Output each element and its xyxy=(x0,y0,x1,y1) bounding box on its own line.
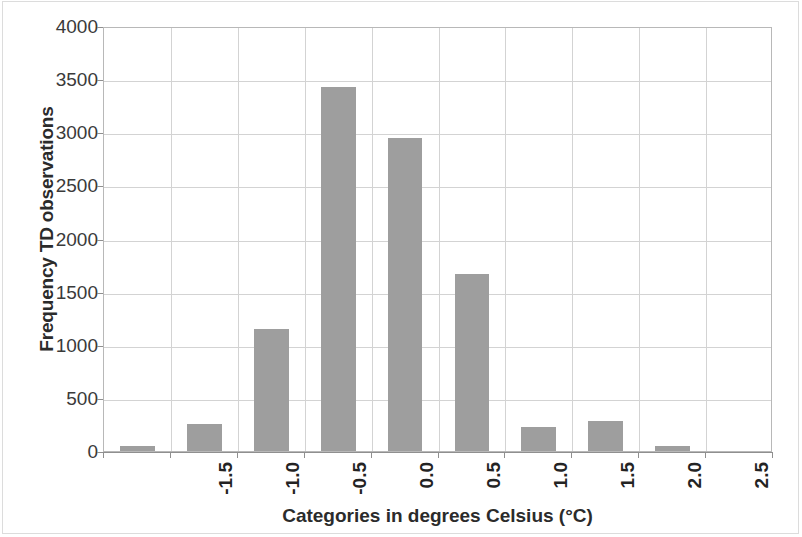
y-axis-tick-label: 4000 xyxy=(36,16,98,38)
bar-1.5 xyxy=(521,427,556,451)
x-axis-tick-mark xyxy=(304,452,305,458)
x-axis-tick-mark xyxy=(504,452,505,458)
x-axis-tick-mark xyxy=(638,452,639,458)
x-axis-tick-mark xyxy=(170,452,171,458)
y-axis-tick-label: 0 xyxy=(36,441,98,463)
y-axis-tick-label: 1000 xyxy=(36,335,98,357)
y-axis-tick-label: 2500 xyxy=(36,175,98,197)
x-axis-tick-mark xyxy=(438,452,439,458)
x-axis-tick-mark xyxy=(371,452,372,458)
y-axis-tick-mark xyxy=(97,293,103,294)
x-axis-tick-mark xyxy=(103,452,104,458)
x-axis-title: Categories in degrees Celsius (°C) xyxy=(103,505,772,527)
bars-group xyxy=(104,28,771,451)
y-axis-tick-labels: 05001000150020002500300035004000 xyxy=(36,27,98,452)
plot-area xyxy=(103,27,772,452)
y-axis-tick-mark xyxy=(97,186,103,187)
y-axis-tick-label: 500 xyxy=(36,388,98,410)
x-axis-tick-mark xyxy=(772,452,773,458)
x-axis-tick-mark xyxy=(237,452,238,458)
y-axis-tick-mark xyxy=(97,80,103,81)
bar--0.5 xyxy=(254,329,289,451)
bar--1.5 xyxy=(120,446,155,451)
y-axis-tick-mark xyxy=(97,346,103,347)
bar--1.0 xyxy=(187,424,222,451)
x-axis-tick-mark xyxy=(705,452,706,458)
bar-0.0 xyxy=(321,87,356,451)
y-axis-tick-label: 3000 xyxy=(36,122,98,144)
x-axis-tick-mark xyxy=(571,452,572,458)
bar-2.0 xyxy=(588,421,623,451)
y-axis-tick-mark xyxy=(97,240,103,241)
bar-chart-figure: Frequency TD observations 05001000150020… xyxy=(0,0,802,537)
y-axis-tick-label: 3500 xyxy=(36,69,98,91)
y-axis-tick-mark xyxy=(97,399,103,400)
bar-2.5 xyxy=(655,446,690,451)
bar-0.5 xyxy=(388,138,423,451)
y-axis-tick-label: 1500 xyxy=(36,282,98,304)
bar-1.0 xyxy=(455,274,490,451)
y-axis-tick-mark xyxy=(97,27,103,28)
y-axis-tick-label: 2000 xyxy=(36,229,98,251)
y-axis-tick-mark xyxy=(97,133,103,134)
